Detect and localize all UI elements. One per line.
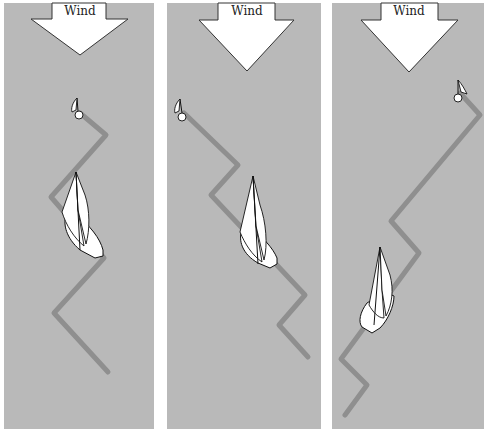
panel-2: Wind: [167, 3, 321, 429]
wind-label: Wind: [64, 4, 96, 18]
panel-1: Wind: [4, 3, 154, 429]
panel-3: Wind: [332, 3, 484, 429]
wind-label: Wind: [231, 4, 263, 18]
tacking-diagram: Wind Wind: [0, 0, 489, 434]
wind-label: Wind: [393, 4, 425, 18]
